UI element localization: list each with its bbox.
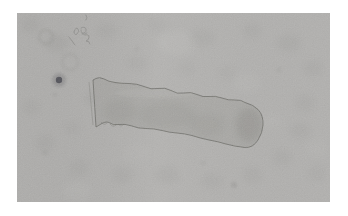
overlay-layer	[17, 13, 330, 202]
micrograph-photo	[17, 13, 330, 202]
photo-frame	[0, 0, 348, 216]
film-grain-overlay	[17, 13, 330, 202]
micrograph-scene	[17, 13, 330, 202]
